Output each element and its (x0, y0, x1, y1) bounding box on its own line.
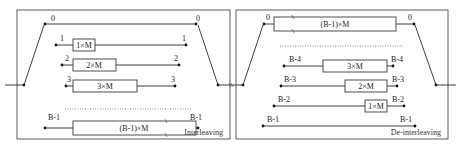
branch-terminal (185, 44, 188, 47)
deinterleaver-branch-b-2: 1×M B-2 B-2 (273, 95, 406, 112)
branch-index-right: 0 (196, 14, 200, 23)
interleaver-branch-0: 0 0 (44, 14, 200, 25)
branch-index-left: 2 (65, 54, 69, 63)
delay-label: (B-1)×M (321, 20, 350, 29)
branch-index-right: 2 (174, 54, 178, 63)
delay-label: (B-1)×M (120, 124, 149, 133)
branch-terminal (396, 85, 399, 88)
interleaver-title: Interleaving (184, 128, 223, 137)
delay-label: 1×M (76, 41, 92, 50)
interleaver-output-switch-arm (198, 25, 218, 85)
deinterleaver-branch-0: (B-1)×M 0 0 (263, 13, 416, 33)
deinterleaver-input-switch-arm (243, 25, 263, 85)
branch-index-left: 3 (67, 75, 71, 84)
interleaver-branch-b-1: (B-1)×M B-1 B-1 (44, 113, 202, 137)
branch-index-right: 3 (171, 75, 175, 84)
delay-label: 1×M (368, 102, 384, 111)
branch-index-left: B-3 (284, 75, 296, 84)
branch-index-right: 1 (182, 34, 186, 43)
branch-index-left: B-4 (289, 55, 301, 64)
deinterleaver-output-switch-arm (415, 25, 436, 85)
delay-label: 2×M (358, 82, 374, 91)
branch-terminal (413, 23, 416, 26)
branch-index-right: B-2 (392, 95, 404, 104)
branch-index-right: B-3 (392, 75, 404, 84)
branch-index-left: B-1 (48, 113, 60, 122)
deinterleaver-branch-b-3: 2×M B-3 B-3 (280, 75, 404, 92)
interleaving-diagram: 0 0 1×M 1 1 2×M 2 2 3×M 3 3 (0, 0, 462, 153)
branch-index-left: B-2 (278, 95, 290, 104)
deinterleaver-branch-b-4: 3×M B-4 B-4 (283, 55, 403, 72)
deinterleaver-branch-b-1: B-1 B-1 (262, 115, 417, 127)
branch-terminal (174, 85, 177, 88)
branch-index-right: B-4 (391, 55, 403, 64)
branch-index-left: 1 (60, 34, 64, 43)
deinterleaver-title: De-interleaving (391, 128, 441, 137)
branch-terminal (392, 65, 395, 68)
interleaver-branch-2: 2×M 2 2 (61, 54, 181, 71)
branch-index-right: 0 (408, 13, 412, 22)
interleaver-input-switch-arm (24, 25, 44, 85)
branch-terminal (403, 105, 406, 108)
branch-terminal (195, 23, 198, 26)
delay-label: 3×M (97, 82, 113, 91)
branch-index-left: 0 (266, 13, 270, 22)
branch-index-right: B-1 (400, 115, 412, 124)
branch-index-left: 0 (51, 14, 55, 23)
branch-terminal (414, 125, 417, 128)
delay-label: 3×M (347, 62, 363, 71)
branch-index-right: B-1 (190, 113, 202, 122)
interleaver-branch-3: 3×M 3 3 (65, 75, 177, 92)
delay-label: 2×M (86, 61, 102, 70)
branch-terminal (178, 64, 181, 67)
interleaver-branch-1: 1×M 1 1 (55, 34, 188, 51)
branch-index-left: B-1 (267, 115, 279, 124)
